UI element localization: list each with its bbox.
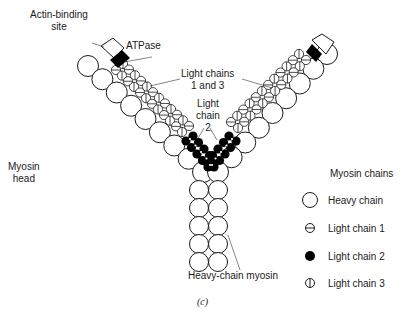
actin-binding-site-label: Actin-binding site: [30, 9, 88, 33]
legend-title: Myosin chains: [330, 168, 393, 180]
open-circle-icon: [300, 191, 320, 209]
myosin-head-label: Myosin head: [8, 161, 40, 185]
legend-item-light-chain-2: Light chain 2: [300, 250, 385, 262]
filled-circle-icon: [300, 250, 320, 262]
legend-item-heavy-chain: Heavy chain: [300, 191, 383, 209]
atpase-label: ATPase: [126, 40, 161, 52]
circle-vertical-bar-icon: [300, 277, 320, 289]
legend-item-light-chain-1: Light chain 1: [300, 222, 385, 234]
heavy-chain-myosin-label: Heavy-chain myosin: [188, 270, 278, 282]
circle-horizontal-bar-icon: [300, 222, 320, 234]
legend-label: Light chain 3: [328, 278, 385, 289]
light-chain-2-label: Light chain 2: [196, 98, 220, 134]
light-chains-1-3-label: Light chains 1 and 3: [181, 68, 234, 92]
legend-item-light-chain-3: Light chain 3: [300, 277, 385, 289]
figure-caption: (c): [197, 296, 208, 307]
legend-label: Light chain 2: [328, 251, 385, 262]
legend-label: Light chain 1: [328, 223, 385, 234]
legend-label: Heavy chain: [328, 195, 383, 206]
